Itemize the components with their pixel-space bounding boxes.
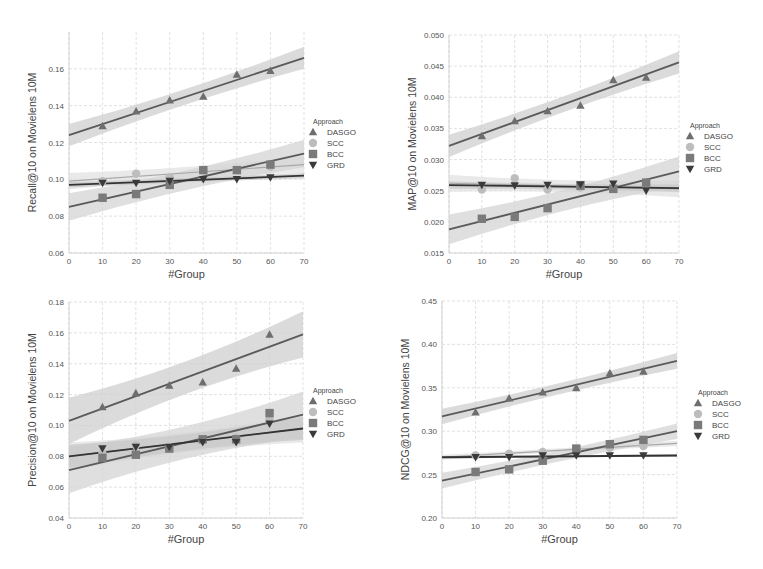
confidence-band-dasgo (69, 47, 304, 146)
svg-text:60: 60 (642, 257, 651, 266)
data-point (478, 182, 486, 190)
legend-label-bcc: BCC (327, 150, 344, 159)
svg-text:70: 70 (673, 522, 682, 531)
legend-label-grd: GRD (327, 430, 345, 439)
fit-line-scc (442, 443, 677, 457)
confidence-band-grd (442, 454, 677, 458)
data-point (572, 446, 580, 454)
svg-text:70: 70 (675, 257, 684, 266)
legend-marker-scc-icon (309, 139, 317, 147)
svg-text:50: 50 (232, 257, 241, 266)
recall-chart-panel: 0102030405060700.060.080.100.120.140.16#… (0, 0, 763, 569)
legend-label-dasgo: DASGO (712, 399, 741, 408)
data-point (606, 443, 614, 451)
data-point (539, 457, 547, 465)
data-point (98, 122, 106, 130)
data-point (639, 452, 647, 460)
confidence-band-bcc (69, 140, 304, 221)
chart-svg: 0102030405060700.0150.0200.0250.0300.035… (0, 0, 763, 569)
legend-marker-bcc-icon (686, 154, 694, 162)
legend-label-bcc: BCC (712, 421, 729, 430)
legend: ApproachDASGOSCCBCCGRD (686, 122, 733, 174)
data-point (576, 181, 584, 189)
svg-text:0.025: 0.025 (424, 187, 445, 196)
legend-marker-scc-icon (694, 410, 702, 418)
series-scc (478, 174, 651, 194)
data-point (642, 182, 650, 190)
data-point (132, 451, 140, 459)
data-point (232, 439, 240, 447)
data-point (511, 174, 519, 182)
data-point (471, 468, 479, 476)
data-point (478, 185, 486, 193)
legend-marker-grd-icon (309, 431, 317, 439)
svg-text:0: 0 (440, 522, 445, 531)
svg-text:60: 60 (266, 257, 275, 266)
legend-label-scc: SCC (712, 410, 729, 419)
legend-title: Approach (313, 387, 343, 395)
data-point (511, 213, 519, 221)
svg-text:0: 0 (447, 257, 452, 266)
data-point (132, 180, 140, 188)
data-point (232, 434, 240, 442)
fit-line-dasgo (442, 361, 677, 417)
confidence-band-scc (69, 415, 303, 471)
data-point (609, 76, 617, 84)
series-dasgo (98, 66, 274, 129)
data-point (265, 409, 273, 417)
legend-label-dasgo: DASGO (327, 128, 356, 137)
legend-label-grd: GRD (327, 161, 345, 170)
svg-text:0.40: 0.40 (421, 340, 437, 349)
svg-text:30: 30 (538, 522, 547, 531)
svg-text:0.35: 0.35 (421, 384, 437, 393)
data-point (132, 107, 140, 115)
data-point (606, 452, 614, 460)
legend: ApproachDASGOSCCBCCGRD (694, 389, 741, 441)
data-point (98, 177, 106, 185)
tick-labels: 0102030405060700.0150.0200.0250.0300.035… (424, 31, 684, 266)
data-point (165, 444, 173, 452)
svg-text:60: 60 (265, 522, 274, 531)
data-point (199, 166, 207, 174)
y-axis-label: NDCG@10 on Movielens 10M (399, 339, 411, 480)
fit-line-bcc (449, 171, 679, 229)
svg-text:0.16: 0.16 (48, 65, 64, 74)
data-point (199, 166, 207, 174)
legend-marker-grd-icon (686, 166, 694, 174)
chart-svg: 0102030405060700.060.080.100.120.140.16#… (0, 0, 763, 569)
confidence-band-bcc (449, 156, 679, 244)
series-bcc (478, 178, 651, 223)
data-point (639, 442, 647, 450)
data-point (166, 178, 174, 186)
data-point (505, 454, 513, 462)
fit-line-scc (449, 183, 679, 189)
legend: ApproachDASGOSCCBCCGRD (309, 387, 356, 439)
data-point (266, 174, 274, 182)
data-point (642, 73, 650, 81)
data-point (265, 415, 273, 423)
legend-marker-dasgo-icon (686, 132, 694, 140)
data-point (543, 107, 551, 115)
svg-text:40: 40 (576, 257, 585, 266)
svg-text:0.020: 0.020 (424, 218, 445, 227)
svg-text:40: 40 (199, 257, 208, 266)
data-point (471, 408, 479, 416)
data-point (642, 178, 650, 186)
svg-text:0.14: 0.14 (48, 360, 64, 369)
data-point (572, 452, 580, 460)
svg-text:0.14: 0.14 (48, 102, 64, 111)
legend-marker-bcc-icon (309, 150, 317, 158)
svg-text:0.015: 0.015 (424, 249, 445, 258)
confidence-band-grd (449, 181, 679, 192)
data-point (98, 180, 106, 188)
data-point (132, 389, 140, 397)
data-point (576, 101, 584, 109)
data-point (98, 445, 106, 453)
data-point (539, 388, 547, 396)
fit-line-bcc (69, 415, 303, 471)
grid-lines (449, 35, 679, 253)
data-point (233, 166, 241, 174)
data-point (233, 176, 241, 184)
confidence-band-dasgo (69, 311, 303, 444)
data-point (606, 440, 614, 448)
